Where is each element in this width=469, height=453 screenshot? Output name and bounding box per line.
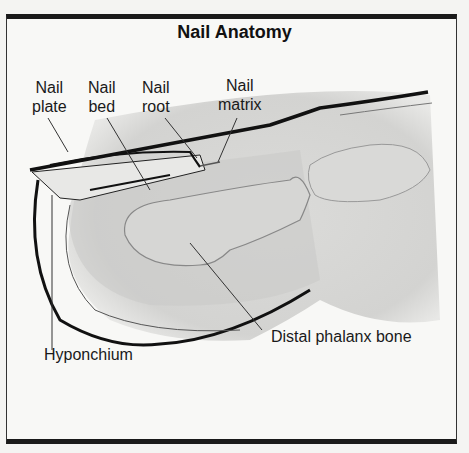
label-hyponchium: Hyponchium <box>44 345 133 364</box>
label-nail-root: Nailroot <box>142 78 170 116</box>
finger-illustration <box>0 0 469 453</box>
label-distal-phalanx: Distal phalanx bone <box>271 327 412 346</box>
label-nail-matrix: Nailmatrix <box>218 76 262 114</box>
label-nail-bed: Nailbed <box>88 78 116 116</box>
label-nail-plate: Nailplate <box>32 78 67 116</box>
